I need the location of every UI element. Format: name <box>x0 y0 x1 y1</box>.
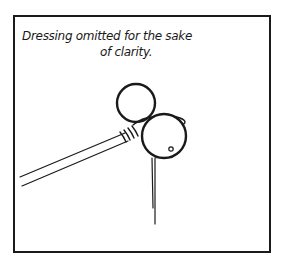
fly-illustration <box>0 0 281 270</box>
hook-line-1 <box>152 158 153 208</box>
lower-eye-ball <box>142 114 186 158</box>
upper-eye-ball <box>117 84 155 122</box>
rod-line-top <box>20 133 125 177</box>
rod-line-bottom <box>22 141 128 186</box>
